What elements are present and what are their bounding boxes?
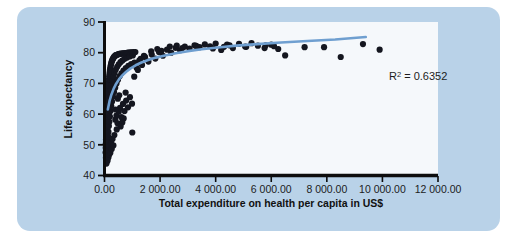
y-tick-label: 50 [83,139,95,151]
scatter-point [127,94,133,100]
scatter-chart: 405060708090 0.002 000.004 000.006 000.0… [0,0,508,238]
y-axis-title: Life expectancy [62,59,74,138]
scatter-point [202,41,208,47]
x-tick-label: 0.00 [94,183,115,195]
chart-page: 405060708090 0.002 000.004 000.006 000.0… [0,0,508,238]
x-tick-label: 10 000.00 [359,183,406,195]
y-tick-label: 80 [83,46,95,58]
scatter-point [321,44,327,50]
x-axis-title: Total expenditure on health per capita i… [159,197,384,209]
scatter-point [110,142,116,148]
y-tick-label: 70 [83,77,95,89]
scatter-point [111,132,117,138]
x-tick-label: 8 000.00 [306,183,347,195]
y-tick-label: 90 [83,16,95,28]
x-tick-label: 12 000.00 [415,183,462,195]
scatter-point [193,43,199,49]
x-tick-label: 4 000.00 [195,183,236,195]
x-axis-tick-labels: 0.002 000.004 000.006 000.008 000.0010 0… [94,183,461,195]
scatter-point [113,106,119,112]
x-tick-label: 2 000.00 [140,183,181,195]
y-tick-label: 60 [83,108,95,120]
scatter-point [282,52,288,58]
y-axis-tick-labels: 405060708090 [83,16,95,182]
scatter-point [377,47,383,53]
scatter-point [132,49,138,55]
y-tick-label: 40 [83,169,95,181]
scatter-point [115,96,121,102]
scatter-point [360,41,366,47]
scatter-point [107,113,113,119]
scatter-point [135,67,141,73]
scatter-point [167,43,173,49]
scatter-point [338,54,344,60]
scatter-point [129,129,135,135]
x-tick-label: 6 000.00 [251,183,292,195]
scatter-point [154,46,160,52]
scatter-point [148,48,154,54]
scatter-point-group [103,40,383,167]
scatter-point [114,126,120,132]
scatter-point [105,129,111,135]
scatter-point [179,45,185,51]
scatter-point [174,43,180,49]
r-squared-annotation: R2 = 0.6352 [389,70,447,83]
scatter-point [302,44,308,50]
scatter-point [131,74,137,80]
scatter-point [129,101,135,107]
scatter-point [123,90,129,96]
